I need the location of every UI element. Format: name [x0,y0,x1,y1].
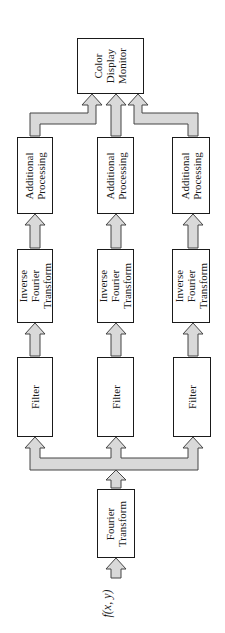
arrow-f-ift-3 [183,323,203,356]
additional-processing-box-2: AdditionalProcessing [97,137,134,214]
monitor-line3: Monitor [117,48,129,84]
arrow-splitter [25,437,203,470]
arrow-f-ift-2 [106,323,126,356]
ift-line1: Inverse [98,263,110,309]
ift-line3: Transform [122,263,134,309]
proc-line2: Processing [191,152,203,200]
arrow-ift-p-1 [25,214,45,248]
proc-line1: Additional [104,152,116,200]
arrow-input [106,558,126,578]
ift-line2: Fourier [110,263,122,309]
ift-line3: Transform [41,263,53,309]
arrow-ft-out [106,470,126,488]
ift-line2: Fourier [29,263,41,309]
arrow-p-m-1 [30,94,102,136]
proc-line1: Additional [23,152,35,200]
input-signal-label: f(x, y) [100,590,115,618]
ift-line1: Inverse [173,263,185,309]
monitor-label: Color Display Monitor [93,48,129,84]
proc-label-1: AdditionalProcessing [23,152,47,200]
ift-label-2: InverseFourierTransform [98,263,134,309]
arrow-p-m-3 [128,94,198,136]
proc-line2: Processing [116,152,128,200]
ft-label: FourierTransform [104,500,128,546]
ft-line2: Transform [116,500,128,546]
inverse-fourier-box-2: InverseFourierTransform [97,249,134,323]
inverse-fourier-box-3: InverseFourierTransform [172,249,210,323]
proc-label-2: AdditionalProcessing [104,152,128,200]
proc-line1: Additional [179,152,191,200]
ift-line3: Transform [197,263,209,309]
arrow-ift-p-2 [106,214,126,248]
additional-processing-box-1: AdditionalProcessing [17,137,53,214]
color-display-monitor-box: Color Display Monitor [77,38,144,94]
arrow-p-m-2 [106,94,126,136]
filter-label: Filter [110,385,122,409]
monitor-line1: Color [93,48,105,84]
ift-label-3: InverseFourierTransform [173,263,209,309]
filter-label: Filter [186,385,198,409]
additional-processing-box-3: AdditionalProcessing [172,137,210,214]
arrow-ift-p-3 [183,214,203,248]
ift-line2: Fourier [185,263,197,309]
filter-box-3: Filter [173,357,211,437]
ift-label-1: InverseFourierTransform [17,263,53,309]
inverse-fourier-box-1: InverseFourierTransform [17,249,53,323]
ft-line1: Fourier [104,500,116,546]
ift-line1: Inverse [17,263,29,309]
proc-label-3: AdditionalProcessing [179,152,203,200]
filter-label: Filter [29,385,41,409]
fourier-transform-box: FourierTransform [97,489,135,558]
monitor-line2: Display [105,48,117,84]
filter-box-1: Filter [17,357,53,437]
filter-box-2: Filter [97,357,134,437]
proc-line2: Processing [35,152,47,200]
arrow-f-ift-1 [25,323,45,356]
